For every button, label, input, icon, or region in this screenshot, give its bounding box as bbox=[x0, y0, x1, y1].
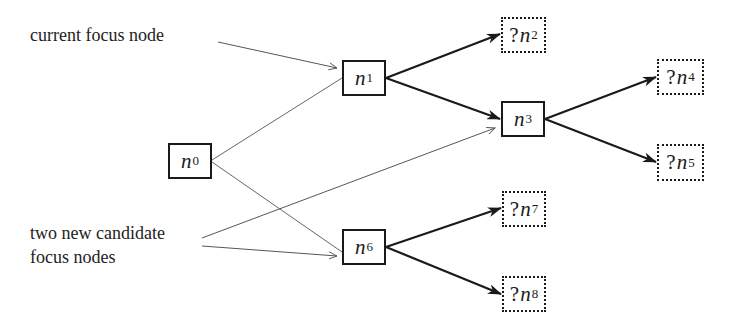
node-var: n bbox=[355, 66, 366, 91]
node-var: n bbox=[677, 150, 688, 175]
node-subscript: 4 bbox=[688, 69, 695, 85]
unknown-marker: ? bbox=[510, 197, 519, 222]
node-subscript: 8 bbox=[532, 286, 539, 302]
pointer-candidate-n3 bbox=[202, 128, 495, 238]
edge-n6-n7 bbox=[386, 208, 501, 247]
edge-n1-n2 bbox=[386, 34, 500, 78]
node-var: n bbox=[520, 23, 531, 48]
node-subscript: 0 bbox=[193, 153, 200, 169]
edge-n0-n1 bbox=[212, 78, 342, 160]
node-var: n bbox=[677, 65, 688, 90]
node-n2-unexpanded: ?n2 bbox=[501, 17, 546, 53]
node-subscript: 2 bbox=[531, 27, 538, 43]
node-n8-unexpanded: ?n8 bbox=[502, 276, 546, 312]
current-focus-label: current focus node bbox=[30, 24, 164, 46]
edge-n1-n3 bbox=[386, 78, 500, 119]
node-var: n bbox=[355, 235, 366, 260]
node-n0: n0 bbox=[168, 143, 212, 179]
unknown-marker: ? bbox=[510, 282, 519, 307]
node-var: n bbox=[181, 149, 192, 174]
node-subscript: 7 bbox=[532, 201, 539, 217]
node-n4-unexpanded: ?n4 bbox=[657, 59, 704, 95]
edge-n6-n8 bbox=[386, 247, 501, 294]
pointer-current-focus bbox=[218, 42, 337, 68]
edge-n3-n4 bbox=[545, 77, 656, 119]
node-n6: n6 bbox=[342, 229, 386, 265]
node-subscript: 3 bbox=[526, 111, 533, 127]
candidates-label-line2: focus nodes bbox=[30, 246, 115, 268]
node-subscript: 5 bbox=[688, 155, 695, 171]
unknown-marker: ? bbox=[509, 23, 518, 48]
focus-tree-diagram: current focus node two new candidate foc… bbox=[0, 0, 732, 330]
node-n3: n3 bbox=[501, 101, 545, 137]
node-n7-unexpanded: ?n7 bbox=[502, 191, 546, 227]
unknown-marker: ? bbox=[666, 150, 675, 175]
node-var: n bbox=[514, 107, 525, 132]
node-n1: n1 bbox=[342, 60, 386, 96]
node-subscript: 6 bbox=[367, 239, 374, 255]
edge-n0-n6 bbox=[212, 162, 342, 252]
edges-layer bbox=[0, 0, 732, 330]
node-n5-unexpanded: ?n5 bbox=[657, 144, 704, 181]
pointer-candidate-n6 bbox=[202, 246, 337, 256]
candidates-label-line1: two new candidate bbox=[30, 222, 165, 244]
node-subscript: 1 bbox=[367, 70, 374, 86]
node-var: n bbox=[520, 197, 531, 222]
edge-n3-n5 bbox=[545, 119, 656, 162]
node-var: n bbox=[520, 282, 531, 307]
unknown-marker: ? bbox=[666, 65, 675, 90]
